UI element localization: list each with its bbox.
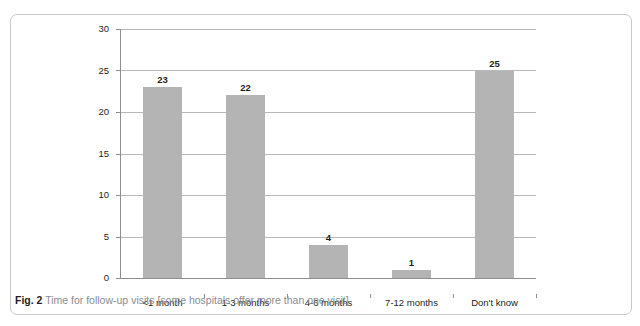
y-tick-label: 10 — [79, 190, 109, 200]
y-tick-label: 30 — [79, 24, 109, 34]
y-tick-label: 25 — [79, 66, 109, 76]
bar-value-label: 25 — [475, 59, 515, 69]
figure-caption-label: Fig. 2 — [15, 294, 42, 306]
y-tick-label: 5 — [79, 232, 109, 242]
y-tick-label: 0 — [79, 273, 109, 283]
bar-value-label: 23 — [143, 75, 183, 85]
x-tick-mark — [536, 294, 537, 298]
bar — [226, 95, 265, 278]
figure-caption-text: Time for follow-up visits [some hospital… — [45, 294, 348, 306]
bar — [143, 87, 182, 278]
bar — [392, 270, 431, 278]
bar-value-label: 4 — [309, 233, 349, 243]
y-tick-label: 15 — [79, 149, 109, 159]
clipped-page-text — [62, 0, 582, 1]
bar-value-label: 1 — [392, 258, 432, 268]
bar — [309, 245, 348, 278]
bar — [475, 71, 514, 279]
figure-frame: 051015202530 <1 month1-3 months4-6 month… — [10, 14, 632, 315]
gridline — [121, 278, 536, 279]
bar-value-label: 22 — [226, 83, 266, 93]
y-tick-label: 20 — [79, 107, 109, 117]
x-tick-label: Don't know — [445, 298, 545, 308]
y-tick-mark — [116, 278, 121, 279]
figure-caption: Fig. 2 Time for follow-up visits [some h… — [15, 294, 349, 307]
